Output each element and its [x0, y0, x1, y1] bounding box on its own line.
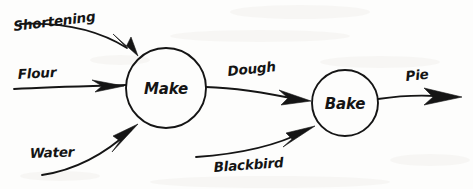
pie-arrow-line [378, 96, 436, 99]
flow-flour [14, 80, 126, 92]
flow-dough [206, 87, 311, 105]
make-label: Make [144, 80, 188, 98]
flow-label-dough: Dough [227, 58, 277, 79]
flow-blackbird [196, 126, 315, 157]
blackbird-arrow-head [283, 126, 315, 147]
node-make[interactable]: Make [126, 48, 206, 128]
flow-label-pie: Pie [405, 66, 430, 84]
flow-label-blackbird: Blackbird [213, 154, 284, 175]
bake-label: Bake [325, 95, 365, 113]
diagram-canvas: Make Bake Shortening Flour Water Dough B… [0, 0, 473, 189]
flow-pie [378, 88, 462, 105]
shortening-arrow-head [113, 34, 138, 56]
water-arrow-head [112, 124, 138, 152]
node-bake[interactable]: Bake [312, 70, 378, 136]
flow-label-flour: Flour [17, 64, 58, 82]
diagram-svg: Make Bake Shortening Flour Water Dough B… [0, 0, 473, 189]
flow-label-water: Water [30, 143, 76, 161]
